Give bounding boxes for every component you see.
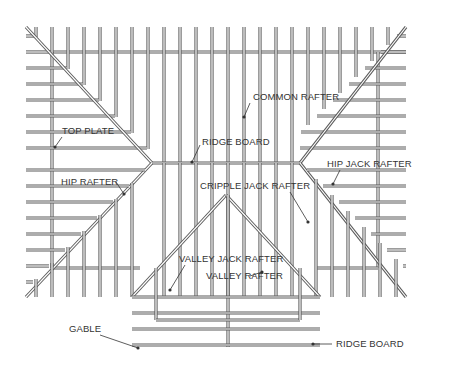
label-hip-rafter: HIP RAFTER [61,176,118,187]
label-hip-jack-rafter: HIP JACK RAFTER [327,158,412,169]
roof-framing-diagram: COMMON RAFTER TOP PLATE RIDGE BOARD HIP … [0,0,454,372]
label-ridge-board-gable: RIDGE BOARD [336,338,404,349]
label-valley-rafter: VALLEY RAFTER [206,270,283,281]
label-cripple-jack-rafter: CRIPPLE JACK RAFTER [200,180,310,191]
label-common-rafter: COMMON RAFTER [253,91,339,102]
label-valley-jack-rafter: VALLEY JACK RAFTER [179,253,283,264]
label-top-plate: TOP PLATE [62,125,114,136]
label-gable: GABLE [69,323,101,334]
label-ridge-board: RIDGE BOARD [202,136,270,147]
